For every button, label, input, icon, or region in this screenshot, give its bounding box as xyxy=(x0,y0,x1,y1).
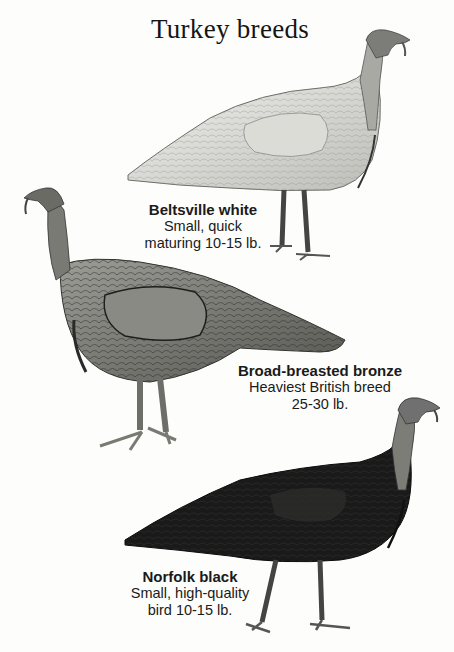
breed-weight: 25-30 lb. xyxy=(222,396,418,413)
breed-name: Broad-breasted bronze xyxy=(222,362,418,379)
breed-caption-beltsville-white: Beltsville white Small, quick maturing 1… xyxy=(128,201,278,252)
breed-description: Small, quick xyxy=(128,218,278,235)
breed-description: Heaviest British breed xyxy=(222,379,418,396)
breed-description: Small, high-quality xyxy=(108,585,272,602)
black-turkey-illustration xyxy=(0,0,454,652)
breed-weight: bird 10-15 lb. xyxy=(108,602,272,619)
breed-caption-norfolk-black: Norfolk black Small, high-quality bird 1… xyxy=(108,568,272,619)
breed-name: Norfolk black xyxy=(108,568,272,585)
breed-name: Beltsville white xyxy=(128,201,278,218)
breed-caption-broad-breasted-bronze: Broad-breasted bronze Heaviest British b… xyxy=(222,362,418,413)
breed-weight: maturing 10-15 lb. xyxy=(128,235,278,252)
